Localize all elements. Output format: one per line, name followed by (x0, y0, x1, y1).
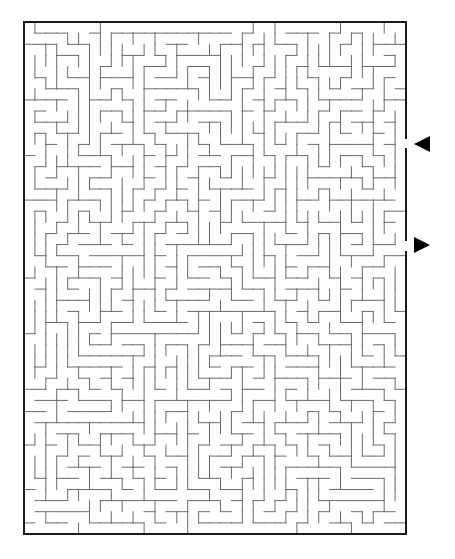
exit-arrow-icon (414, 237, 430, 253)
maze-board (0, 0, 455, 559)
maze-walls (24, 22, 406, 534)
entrance-arrow-icon (414, 136, 430, 152)
